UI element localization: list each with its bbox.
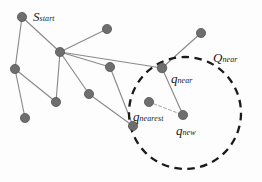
tree-node-n-upright — [196, 28, 205, 37]
label-s-start-subscript: start — [40, 14, 55, 23]
label-q-near: qnear — [171, 70, 193, 86]
tree-node-n-right — [105, 62, 114, 71]
tree-node-n-top — [102, 24, 111, 33]
label-s-start: Sstart — [33, 8, 55, 24]
tree-node-n-bl — [20, 113, 29, 122]
tree-edge — [162, 33, 201, 68]
tree-node-s-start — [17, 12, 26, 21]
rrt-figure: Sstart Qnear qnear qnearest qnew — [0, 0, 262, 182]
label-q-nearest-subscript: nearest — [140, 114, 164, 123]
label-q-near-region-base: Q — [213, 50, 222, 65]
tree-edge — [60, 52, 89, 94]
tree-node-n-mid — [84, 89, 93, 98]
label-q-near-subscript: near — [178, 76, 193, 85]
label-q-near-region-subscript: near — [222, 55, 237, 64]
tree-node-q-nearest — [144, 97, 153, 106]
tree-edge — [60, 29, 107, 52]
label-q-new: qnew — [176, 122, 196, 138]
label-q-new-subscript: new — [183, 128, 196, 137]
tree-node-q-near — [157, 63, 167, 73]
tree-node-n-lower — [51, 97, 60, 106]
label-q-nearest: qnearest — [133, 108, 163, 124]
tree-edge — [15, 17, 22, 69]
rrt-diagram-canvas — [0, 0, 262, 182]
tree-node-n-left — [10, 64, 19, 73]
tree-edge — [60, 52, 110, 67]
tree-node-hub — [55, 47, 64, 56]
tree-node-q-new — [178, 110, 187, 119]
tree-edge — [56, 52, 60, 102]
label-q-near-region: Qnear — [213, 49, 237, 65]
